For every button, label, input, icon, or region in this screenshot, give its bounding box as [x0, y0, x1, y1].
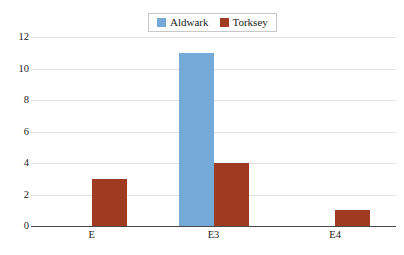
legend-label-torksey: Torksey	[233, 17, 268, 28]
bar-torksey-e3	[214, 163, 249, 226]
y-axis-tick-label: 0	[3, 221, 29, 232]
legend-item-aldwark: Aldwark	[157, 17, 209, 28]
legend-swatch-aldwark	[157, 18, 166, 27]
legend-item-torksey: Torksey	[220, 17, 268, 28]
x-axis: EE3E4	[31, 230, 396, 248]
x-axis-tick-label: E3	[208, 230, 220, 241]
bar-torksey-e4	[335, 210, 370, 226]
gridline	[31, 69, 396, 70]
gridline	[31, 100, 396, 101]
gridline	[31, 132, 396, 133]
y-axis-tick-label: 8	[3, 95, 29, 106]
y-axis: 024681012	[0, 37, 29, 226]
bar-torksey-e	[92, 179, 127, 226]
legend-swatch-torksey	[220, 18, 229, 27]
y-axis-tick-label: 4	[3, 158, 29, 169]
y-axis-tick-label: 10	[3, 63, 29, 74]
chart-legend: Aldwark Torksey	[148, 13, 277, 32]
plot-area	[31, 37, 396, 226]
x-axis-tick-label: E	[89, 230, 95, 241]
bar-chart: Aldwark Torksey 024681012 EE3E4	[0, 0, 404, 255]
y-axis-tick-label: 12	[3, 32, 29, 43]
gridline	[31, 37, 396, 38]
legend-label-aldwark: Aldwark	[170, 17, 209, 28]
x-axis-tick-label: E4	[329, 230, 341, 241]
bar-aldwark-e3	[179, 53, 214, 226]
y-axis-tick-label: 2	[3, 189, 29, 200]
y-axis-tick-label: 6	[3, 126, 29, 137]
x-axis-line	[31, 226, 396, 227]
